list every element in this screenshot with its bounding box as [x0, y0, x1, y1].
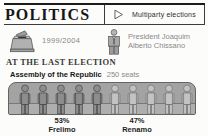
ballot-box-icon — [7, 29, 37, 54]
seat-figure-frelimo — [16, 84, 34, 115]
party-name: Renamo — [97, 125, 177, 134]
triangle-right-icon — [113, 8, 124, 21]
multiparty-elections-tag: Multiparty elections — [104, 5, 205, 24]
tag-label: Multiparty elections — [132, 11, 196, 18]
party-result-renamo: 47% Renamo — [97, 116, 177, 134]
assembly-title-line: Assembly of the Republic 250 seats — [10, 70, 139, 79]
seat-figure-renamo — [178, 84, 196, 115]
seat-figure-renamo — [106, 84, 124, 115]
page-title: POLITICS — [5, 5, 90, 24]
section-heading: AT THE LAST ELECTION — [6, 57, 116, 67]
seat-figure-renamo — [142, 84, 160, 115]
assembly-seats-count: 250 seats — [107, 70, 140, 79]
president-name-line2: Alberto Chissano — [128, 42, 190, 51]
seat-figure-frelimo — [70, 84, 88, 115]
assembly-figures — [16, 84, 196, 115]
seat-figure-frelimo — [52, 84, 70, 115]
president-name-label: President Joaquim Alberto Chissano — [128, 33, 190, 50]
header-divider-rule — [4, 24, 205, 25]
president-icon — [105, 29, 123, 55]
seat-figure-frelimo — [34, 84, 52, 115]
assembly-name: Assembly of the Republic — [10, 70, 102, 79]
politics-infographic-panel: POLITICS Multiparty elections 1999/2004 … — [0, 0, 208, 136]
party-pct: 53% — [22, 116, 102, 125]
party-name: Frelimo — [22, 125, 102, 134]
presidential-term-label: 1999/2004 — [42, 36, 80, 45]
seat-figure-renamo — [160, 84, 178, 115]
party-result-frelimo: 53% Frelimo — [22, 116, 102, 134]
party-pct: 47% — [97, 116, 177, 125]
seat-figure-renamo — [124, 84, 142, 115]
seat-figure-frelimo — [88, 84, 106, 115]
